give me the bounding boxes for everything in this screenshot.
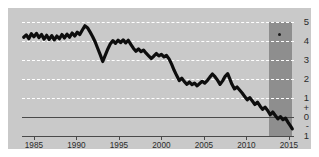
x-label-1995: 1995 xyxy=(104,142,134,150)
x-tick-1985 xyxy=(34,136,35,140)
y-label-2: 3 xyxy=(295,55,309,65)
x-tick-2005 xyxy=(204,136,205,140)
x-axis xyxy=(22,136,294,137)
y-label-0: 5 xyxy=(295,17,309,27)
x-tick-2000 xyxy=(161,136,162,140)
y-label-3: 2 xyxy=(295,74,309,84)
y-label-8: 1 xyxy=(295,131,309,141)
x-tick-2015 xyxy=(289,136,290,140)
x-label-1985: 1985 xyxy=(19,142,49,150)
x-tick-2010 xyxy=(246,136,247,140)
chart-figure: 54321+0-1 1985199019952000200520102015 xyxy=(0,0,319,157)
x-tick-1995 xyxy=(119,136,120,140)
x-tick-1990 xyxy=(76,136,77,140)
plot-area xyxy=(22,22,294,136)
y-label-1: 4 xyxy=(295,36,309,46)
series-trend xyxy=(22,22,294,136)
x-label-2000: 2000 xyxy=(146,142,176,150)
y-label-4: 1 xyxy=(295,93,309,103)
y-label-7: - xyxy=(295,121,309,131)
chart-panel: 54321+0-1 1985199019952000200520102015 xyxy=(8,8,311,149)
x-label-1990: 1990 xyxy=(61,142,91,150)
x-label-2010: 2010 xyxy=(231,142,261,150)
x-label-2015: 2015 xyxy=(274,142,304,150)
x-label-2005: 2005 xyxy=(189,142,219,150)
